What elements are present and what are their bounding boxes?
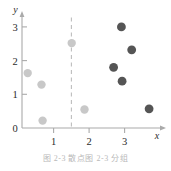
y-axis-arrow — [20, 11, 25, 17]
x-axis-arrow — [160, 126, 166, 131]
y-tick-label-1: 1 — [12, 89, 17, 100]
figure-caption: 图 2-3 散点图 2-3 分组 — [0, 152, 171, 163]
scatter-plot: 0 1 2 3 1 2 3 y x — [0, 0, 171, 171]
data-point — [37, 80, 45, 88]
series-cluster-dark — [109, 23, 153, 114]
x-tick-label-1: 1 — [51, 136, 56, 147]
data-point — [109, 63, 118, 72]
data-point — [38, 116, 46, 124]
x-axis-label: x — [154, 130, 160, 141]
data-point — [68, 39, 76, 47]
data-point — [117, 23, 126, 32]
scatter-figure: 0 1 2 3 1 2 3 y x 图 2-3 散点图 2-3 分组 — [0, 0, 171, 171]
y-tick-label-0: 0 — [12, 123, 17, 134]
y-axis-label: y — [12, 4, 18, 15]
data-point — [127, 45, 136, 54]
data-point — [24, 69, 32, 77]
data-point — [118, 77, 127, 86]
y-tick-label-3: 3 — [12, 22, 17, 33]
x-tick-label-3: 3 — [122, 136, 127, 147]
series-cluster-light — [24, 39, 89, 125]
data-point — [80, 105, 88, 113]
data-point — [145, 104, 154, 113]
y-tick-label-2: 2 — [12, 56, 17, 67]
x-tick-label-2: 2 — [86, 136, 91, 147]
